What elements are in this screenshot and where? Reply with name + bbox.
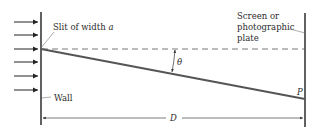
slit-label: Slit of width a <box>53 22 113 32</box>
slit-leader <box>41 32 54 48</box>
screen-label-line3: plate <box>237 33 259 43</box>
angle-label: θ <box>177 57 182 67</box>
wall-label: Wall <box>54 93 73 103</box>
point-label: P <box>296 87 303 97</box>
incident-light-arrows <box>14 22 38 90</box>
distance-label: D <box>169 113 177 123</box>
diffraction-diagram: Slit of width a Screen or photographic p… <box>0 0 319 134</box>
wall-leader <box>42 97 51 98</box>
screen-label-line2: photographic <box>237 22 295 32</box>
angle-arc <box>172 50 175 72</box>
screen-label-line1: Screen or <box>237 11 280 21</box>
diffracted-ray <box>41 49 305 99</box>
